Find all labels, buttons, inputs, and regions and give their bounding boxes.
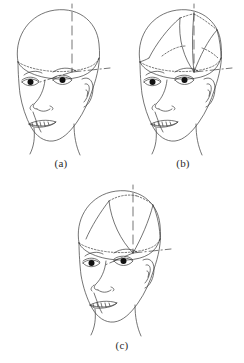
neck-and-shoulders-b bbox=[152, 124, 202, 155]
right-eye-c bbox=[114, 256, 133, 265]
left-eye-b bbox=[144, 77, 161, 86]
nose-c bbox=[91, 261, 114, 292]
hair-section-panel-c bbox=[86, 195, 160, 253]
mouth-c bbox=[90, 301, 117, 308]
right-eye-a bbox=[53, 75, 72, 84]
nose-a bbox=[30, 80, 53, 111]
axis-lines-b bbox=[194, 4, 232, 72]
panel-c-caption: (c) bbox=[61, 339, 183, 351]
neck-and-shoulders-a bbox=[30, 124, 80, 155]
hair-sections-b bbox=[140, 14, 221, 72]
mouth-b bbox=[151, 120, 178, 127]
neck-and-shoulders-c bbox=[91, 305, 141, 336]
left-eye-c bbox=[83, 258, 100, 267]
panel-a bbox=[0, 0, 122, 181]
figure-three-panel-head-sectioning: (a) (b) (c) bbox=[0, 0, 244, 363]
panel-b bbox=[122, 0, 244, 181]
panel-b-caption: (b) bbox=[122, 157, 244, 169]
right-eye-b bbox=[175, 75, 194, 84]
nose-b bbox=[152, 80, 175, 111]
panel-c bbox=[61, 181, 183, 363]
parting-ellipse-b bbox=[140, 58, 221, 79]
parting-ellipse-a bbox=[18, 58, 99, 79]
panel-a-caption: (a) bbox=[0, 157, 122, 169]
parting-ellipse-c bbox=[79, 239, 160, 260]
left-eye-a bbox=[22, 77, 39, 86]
mouth-a bbox=[29, 120, 56, 127]
